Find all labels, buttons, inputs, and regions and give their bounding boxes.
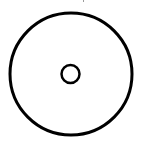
diagram-canvas xyxy=(0,0,143,143)
circles-figure xyxy=(0,0,143,143)
outer-circle xyxy=(10,13,132,135)
inner-circle xyxy=(62,65,80,83)
